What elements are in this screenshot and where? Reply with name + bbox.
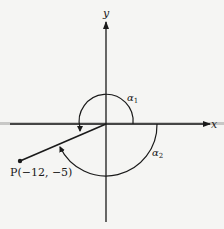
point-p-label: P(−12, −5) — [10, 166, 72, 179]
x-axis-label: x — [211, 118, 218, 131]
terminal-ray — [20, 124, 106, 161]
alpha2-arc — [60, 124, 157, 176]
diagram-canvas: x y α1 α2 P(−12, −5) — [0, 0, 224, 229]
point-p-marker — [18, 159, 22, 163]
alpha1-label: α1 — [127, 92, 138, 105]
alpha2-label: α2 — [152, 147, 163, 160]
y-axis-label: y — [102, 7, 110, 20]
coordinate-plane: x y α1 α2 P(−12, −5) — [0, 0, 224, 229]
